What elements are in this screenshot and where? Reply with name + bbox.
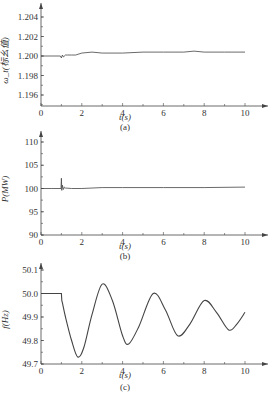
- y-tick-label: 49.9: [22, 312, 38, 322]
- y-tick-label: 49.7: [22, 359, 38, 369]
- x-axis-arrow-icon: [262, 233, 268, 237]
- y-tick-label: 100: [25, 184, 39, 194]
- y-tick-label: 50.0: [22, 289, 38, 299]
- x-tick-label: 10: [241, 237, 251, 247]
- x-axis-label: t(s): [119, 112, 131, 122]
- x-axis-label: t(s): [119, 241, 131, 251]
- x-tick-label: 2: [80, 108, 85, 118]
- panel-a: 02468101.1961.1981.2001.2021.204ω_t(标幺值)…: [0, 3, 268, 132]
- x-axis-arrow-icon: [262, 362, 268, 366]
- y-tick-label: 95: [29, 207, 39, 217]
- panel-label: (b): [120, 251, 131, 261]
- y-axis-label: P(MW): [0, 176, 10, 204]
- x-tick-label: 10: [241, 108, 251, 118]
- panel-label: (a): [120, 122, 130, 132]
- data-series-line: [41, 51, 245, 58]
- y-tick-label: 110: [25, 137, 39, 147]
- x-tick-label: 2: [80, 366, 85, 376]
- x-tick-label: 0: [39, 108, 44, 118]
- y-axis-arrow-icon: [39, 263, 43, 269]
- y-axis-label: ω_t(标幺值): [0, 37, 10, 83]
- y-axis-label: f(Hz): [0, 310, 10, 329]
- y-tick-label: 1.196: [18, 90, 39, 100]
- y-tick-label: 50.1: [22, 265, 38, 275]
- panel-b: 02468109095100105110P(MW)t(s)(b): [0, 131, 268, 261]
- y-tick-label: 1.202: [18, 32, 38, 42]
- data-series-line: [41, 284, 245, 357]
- x-tick-label: 10: [241, 366, 251, 376]
- x-tick-label: 8: [202, 108, 207, 118]
- y-tick-label: 105: [25, 160, 39, 170]
- panel-c: 024681049.749.849.950.050.1f(Hz)t(s)(c): [0, 263, 268, 392]
- y-tick-label: 90: [29, 230, 39, 240]
- x-tick-label: 8: [202, 237, 207, 247]
- y-tick-label: 49.8: [22, 336, 38, 346]
- y-axis-arrow-icon: [39, 3, 43, 9]
- x-tick-label: 6: [161, 366, 166, 376]
- y-tick-label: 1.198: [18, 71, 39, 81]
- x-axis-label: t(s): [119, 370, 131, 380]
- x-tick-label: 2: [80, 237, 85, 247]
- figure: 02468101.1961.1981.2001.2021.204ω_t(标幺值)…: [0, 0, 276, 400]
- y-axis-arrow-icon: [39, 131, 43, 137]
- x-tick-label: 0: [39, 366, 44, 376]
- y-tick-label: 1.204: [18, 12, 39, 22]
- panel-label: (c): [120, 382, 130, 392]
- x-axis-arrow-icon: [262, 104, 268, 108]
- x-tick-label: 6: [161, 237, 166, 247]
- x-tick-label: 0: [39, 237, 44, 247]
- data-series-line: [41, 178, 245, 190]
- x-tick-label: 6: [161, 108, 166, 118]
- y-tick-label: 1.200: [18, 51, 39, 61]
- x-tick-label: 8: [202, 366, 207, 376]
